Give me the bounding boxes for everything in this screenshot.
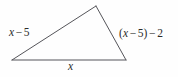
label-right-outer-constant: 2 <box>157 27 163 39</box>
label-bottom-side: x <box>68 61 73 73</box>
label-left-operator: − <box>14 26 24 38</box>
label-bottom-variable: x <box>68 60 73 72</box>
label-right-close-paren: ) <box>144 27 148 39</box>
label-right-inner-operator: − <box>128 27 138 39</box>
triangle-figure: x−5 (x−5)−2 x <box>0 0 178 77</box>
label-right-outer-operator: − <box>148 27 158 39</box>
label-right-side: (x−5)−2 <box>119 28 163 40</box>
label-left-side: x−5 <box>9 27 30 39</box>
label-left-constant: 5 <box>24 26 30 38</box>
